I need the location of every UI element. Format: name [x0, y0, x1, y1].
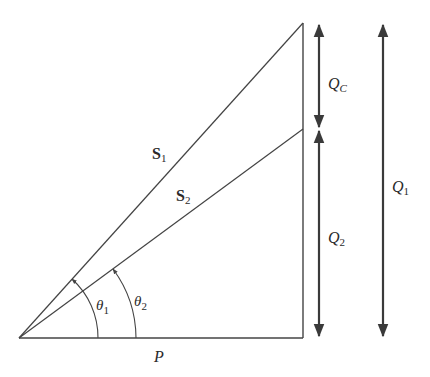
s1-label: S1 [152, 145, 166, 164]
theta1-label: θ1 [96, 297, 109, 316]
q2-label: Q2 [328, 229, 345, 248]
p-label: P [153, 348, 164, 365]
theta2-arc [113, 269, 136, 338]
power-triangle-diagram: S1 S2 P θ1 θ2 QC Q2 Q1 [0, 0, 430, 377]
s1-vector-line [19, 23, 303, 338]
s2-label: S2 [176, 187, 190, 206]
theta2-label: θ2 [134, 293, 147, 312]
q1-label: Q1 [392, 178, 409, 197]
theta1-arc [72, 279, 98, 338]
diagram-svg: S1 S2 P θ1 θ2 QC Q2 Q1 [0, 0, 430, 377]
qc-label: QC [328, 75, 348, 94]
